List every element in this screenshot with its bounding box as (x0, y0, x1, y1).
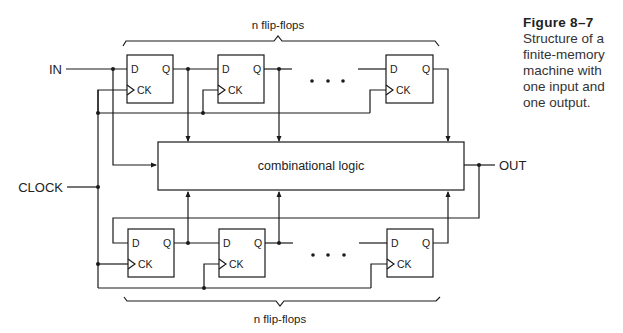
ff-ck-label: CK (138, 258, 153, 270)
figure-caption: Figure 8–7 Structure of a finite-memory … (523, 15, 623, 111)
ff-q-label: Q (162, 63, 170, 75)
ff-q-label: Q (253, 63, 261, 75)
ff-d-label: D (391, 237, 399, 249)
ff-d-label: D (132, 237, 140, 249)
ff-d-label: D (222, 63, 230, 75)
top-ckn-wire (370, 90, 386, 113)
bottom-ck2-wire (204, 264, 219, 288)
ff-q-label: Q (422, 237, 430, 249)
bottom-brace (124, 297, 440, 306)
combinational-logic-label: combinational logic (258, 159, 364, 173)
in-label: IN (49, 62, 62, 77)
ff-ck-label: CK (137, 84, 152, 96)
ff-d-label: D (131, 63, 139, 75)
ff-d-label: D (390, 63, 398, 75)
ff-q-label: Q (422, 63, 430, 75)
figure-caption-text: Structure of a finite-memory machine wit… (523, 31, 623, 111)
ff-ck-label: CK (228, 84, 243, 96)
top-ck2-wire (203, 90, 218, 113)
ff-ck-label: CK (397, 258, 412, 270)
bottom-brace-label: n flip-flops (254, 313, 307, 325)
bottom-ckn-wire (371, 264, 387, 288)
clock-label: CLOCK (18, 180, 63, 195)
out-label: OUT (499, 158, 527, 173)
figure-number: Figure 8–7 (523, 15, 623, 31)
ff-ck-label: CK (396, 84, 411, 96)
ff-q-label: Q (163, 237, 171, 249)
top-brace-label: n flip-flops (252, 19, 305, 31)
top-brace (123, 36, 439, 46)
ff-d-label: D (223, 237, 231, 249)
ff-q-label: Q (254, 237, 262, 249)
ff-ck-label: CK (229, 258, 244, 270)
top-qn-to-logic (433, 69, 448, 141)
